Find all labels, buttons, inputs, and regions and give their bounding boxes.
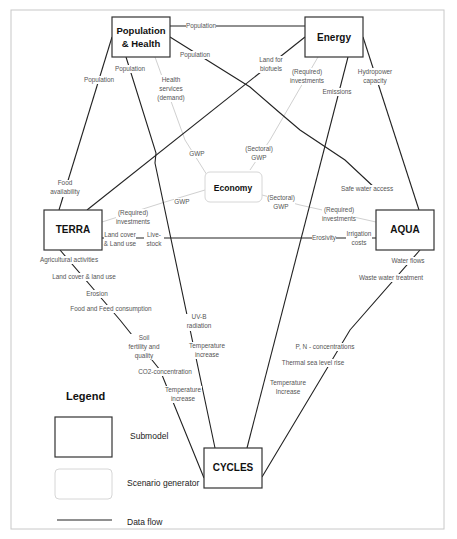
data-flows: [59, 26, 420, 478]
population-health-title-2: & Health: [122, 38, 161, 49]
label-food-feed: Food and Feed consumption: [70, 305, 152, 313]
label-uvb-1: UV-B: [192, 313, 207, 320]
label-req-invest-energy-1: (Required): [292, 68, 322, 76]
label-biofuels-2: biofuels: [260, 65, 282, 72]
label-soil-2: fertility and: [129, 343, 160, 351]
label-sectoral-gwp-aqua-2: GWP: [273, 203, 288, 210]
label-req-invest-aqua-2: investments: [322, 215, 356, 222]
energy-title: Energy: [317, 32, 351, 43]
label-emissions: Emissions: [322, 88, 351, 95]
label-pop-cycles: Population: [115, 65, 146, 73]
label-livestock-1: Live-: [147, 231, 161, 238]
label-land-cover-1: Land cover: [104, 231, 136, 238]
label-pop-terra: Population: [84, 76, 115, 84]
submodel-terra[interactable]: TERRA: [44, 210, 102, 250]
label-pop-energy: Population: [186, 22, 217, 30]
submodel-population-health[interactable]: Population & Health: [112, 17, 170, 57]
label-temp-aqua-2: Increase: [276, 388, 301, 395]
label-water-flows: Water flows: [391, 257, 424, 264]
label-health-1: Health: [162, 76, 181, 83]
legend-title: Legend: [66, 390, 105, 402]
label-hydropower-2: capacity: [363, 77, 387, 85]
label-erosion: Erosion: [86, 290, 108, 297]
label-irrigation-1: Irrigation: [347, 230, 372, 238]
label-waste-water: Waste water treatment: [359, 274, 423, 281]
label-gwp-terra: GWP: [174, 198, 189, 205]
label-soil-3: quality: [135, 352, 154, 360]
label-temp-pop-2: increase: [195, 351, 220, 358]
legend-submodel-label: Submodel: [130, 431, 168, 441]
label-sectoral-gwp-energy-2: GWP: [251, 154, 266, 161]
submodel-cycles[interactable]: CYCLES: [204, 448, 262, 488]
label-gwp-pop: GWP: [189, 150, 204, 157]
model-diagram: Population & Health Energy TERRA AQUA CY…: [0, 0, 457, 539]
label-pop-energy-diag: Population: [180, 51, 211, 59]
label-food-2: availability: [50, 188, 80, 196]
label-soil-1: Soil: [139, 334, 150, 341]
label-hydropower-1: Hydropower: [358, 68, 393, 76]
terra-title: TERRA: [56, 224, 90, 235]
label-health-2: services: [159, 85, 182, 92]
submodel-energy[interactable]: Energy: [305, 17, 363, 57]
legend-dataflow-label: Data flow: [127, 517, 163, 527]
label-req-invest-terra-1: (Required): [118, 209, 148, 217]
legend: Legend Submodel Scenario generator Data …: [55, 390, 199, 527]
aqua-title: AQUA: [390, 224, 419, 235]
label-biofuels-1: Land for: [259, 56, 283, 63]
label-sectoral-gwp-aqua-1: (Sectoral): [267, 194, 295, 202]
label-uvb-2: radiation: [187, 322, 212, 329]
label-temp-pop-1: Temperature: [189, 342, 225, 350]
label-req-invest-aqua-1: (Required): [324, 206, 354, 214]
label-co2: CO2-concentration: [138, 368, 192, 375]
population-health-title-1: Population: [116, 25, 165, 36]
legend-submodel-swatch: [55, 417, 112, 457]
label-food-1: Food: [58, 179, 73, 186]
submodel-aqua[interactable]: AQUA: [376, 210, 434, 250]
label-irrigation-2: costs: [352, 239, 367, 246]
label-safe-water: Safe water access: [341, 185, 393, 192]
cycles-title: CYCLES: [213, 462, 254, 473]
legend-scenario-label: Scenario generator: [127, 478, 199, 488]
label-req-invest-energy-2: investments: [290, 77, 324, 84]
label-erosivity: Erosivity: [312, 234, 337, 242]
label-health-3: (demand): [157, 94, 184, 102]
label-thermal-sea: Thermal sea level rise: [282, 359, 345, 366]
label-temp-aqua-1: Temperature: [270, 379, 306, 387]
label-temp-terra-2: increase: [171, 395, 196, 402]
label-land-cover-2: & Land use: [104, 240, 137, 247]
label-temp-terra-1: Temperature: [165, 386, 201, 394]
label-livestock-2: stock: [147, 240, 163, 247]
economy-title: Economy: [214, 183, 253, 193]
label-pn: P, N - concentrations: [296, 343, 355, 350]
label-agri-activities: Agricultural activities: [40, 256, 98, 264]
scenario-economy[interactable]: Economy: [205, 172, 262, 202]
label-req-invest-terra-2: investments: [116, 218, 150, 225]
label-sectoral-gwp-energy-1: (Sectoral): [245, 145, 273, 153]
label-land-cover-land-use: Land cover & land use: [52, 273, 116, 280]
legend-scenario-swatch: [55, 469, 112, 499]
